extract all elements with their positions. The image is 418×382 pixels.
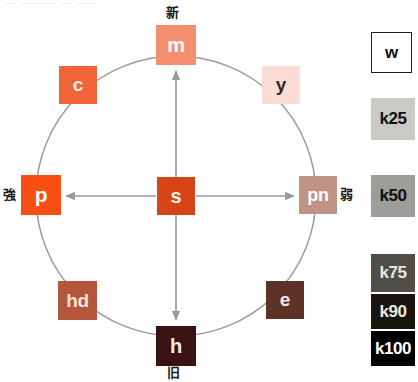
wheel-node-m[interactable]: m xyxy=(156,25,196,65)
wheel-node-h[interactable]: h xyxy=(156,326,196,366)
wheel-node-c[interactable]: c xyxy=(59,66,97,104)
wheel-node-label: y xyxy=(276,74,286,96)
legend-swatch-k75[interactable]: k75 xyxy=(371,254,415,292)
legend-swatch-label: k75 xyxy=(379,263,406,283)
wheel-node-y[interactable]: y xyxy=(262,66,300,104)
legend-swatch-label: k90 xyxy=(379,302,406,322)
legend-swatch-k90[interactable]: k90 xyxy=(371,294,415,329)
wheel-node-label: e xyxy=(280,289,290,311)
wheel-node-label: m xyxy=(167,34,184,57)
wheel-node-e[interactable]: e xyxy=(266,281,304,319)
legend-swatch-k50[interactable]: k50 xyxy=(371,175,415,217)
diagram-canvas: — ——— — —— mcypspnhdeh 新 旧 強 弱 wk25k50k xyxy=(0,0,418,382)
axis-pole-left-strong: 強 xyxy=(3,188,16,201)
wheel-node-label: s xyxy=(171,185,182,208)
wheel-node-label: c xyxy=(73,74,83,96)
legend-swatch-w[interactable]: w xyxy=(371,32,412,73)
legend-swatch-k100[interactable]: k100 xyxy=(371,331,415,366)
legend-swatch-label: k100 xyxy=(375,339,411,359)
axis-pole-right-weak: 弱 xyxy=(340,188,353,201)
legend-swatch-label: k50 xyxy=(379,186,406,206)
wheel-node-p[interactable]: p xyxy=(21,175,61,215)
legend-swatch-k25[interactable]: k25 xyxy=(371,98,415,140)
wheel-node-hd[interactable]: hd xyxy=(58,281,97,320)
color-image-wheel: mcypspnhdeh 新 旧 強 弱 xyxy=(0,0,352,382)
axis-pole-top-new: 新 xyxy=(166,6,179,19)
wheel-node-label: hd xyxy=(66,290,89,312)
wheel-node-s[interactable]: s xyxy=(157,177,195,215)
wheel-node-label: pn xyxy=(307,185,328,206)
legend-swatch-label: w xyxy=(385,43,398,63)
wheel-node-label: p xyxy=(35,183,48,207)
wheel-node-label: h xyxy=(170,335,182,358)
wheel-node-pn[interactable]: pn xyxy=(299,176,337,214)
legend-swatch-label: k25 xyxy=(379,109,406,129)
grayscale-legend: wk25k50k75k90k100 xyxy=(366,0,418,382)
axis-pole-bottom-old: 旧 xyxy=(167,366,180,379)
